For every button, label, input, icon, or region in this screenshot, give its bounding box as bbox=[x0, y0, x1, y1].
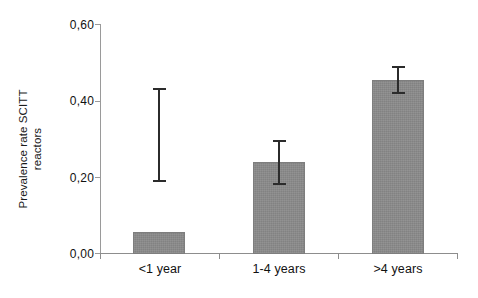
y-tick-mark-0.40 bbox=[95, 101, 100, 102]
plot-area bbox=[100, 24, 458, 254]
y-tick-mark-0.60 bbox=[95, 24, 100, 25]
bar-gt-4-years bbox=[372, 80, 424, 254]
y-axis-tick-labels: 0,00 0,20 0,40 0,60 bbox=[52, 0, 94, 298]
y-tick-label-1: 0,20 bbox=[54, 171, 94, 185]
error-bar-cap-bottom bbox=[153, 180, 166, 182]
x-tick-mark-0 bbox=[100, 254, 101, 259]
x-axis-tick-labels: <1 year 1-4 years >4 years bbox=[100, 262, 458, 284]
error-bar-stem bbox=[397, 66, 399, 94]
x-tick-label-2: >4 years bbox=[373, 262, 422, 276]
error-bar-cap-bottom bbox=[273, 183, 286, 185]
y-tick-label-2: 0,40 bbox=[54, 94, 94, 108]
y-axis-line bbox=[100, 24, 101, 254]
x-tick-label-1: 1-4 years bbox=[252, 262, 305, 276]
error-bar-cap-top bbox=[392, 66, 405, 68]
bar-lt-1-year bbox=[133, 232, 185, 254]
y-tick-label-3: 0,60 bbox=[54, 18, 94, 32]
y-tick-mark-0.20 bbox=[95, 177, 100, 178]
error-bar-stem bbox=[278, 140, 280, 185]
error-bar-stem bbox=[158, 88, 160, 182]
error-bar-cap-bottom bbox=[392, 92, 405, 94]
y-tick-label-0: 0,00 bbox=[54, 247, 94, 261]
x-tick-label-0: <1 year bbox=[139, 262, 182, 276]
error-bar-cap-top bbox=[153, 88, 166, 90]
x-tick-mark-2 bbox=[338, 254, 339, 259]
error-bar-cap-top bbox=[273, 140, 286, 142]
y-axis-title-line2: reactors bbox=[30, 89, 44, 208]
x-tick-mark-3 bbox=[457, 254, 458, 259]
y-axis-title: Prevalence rate SCITT reactors bbox=[0, 0, 60, 298]
bar-chart-figure: Prevalence rate SCITT reactors 0,00 0,20… bbox=[0, 0, 478, 298]
y-axis-title-line1: Prevalence rate SCITT bbox=[16, 89, 30, 208]
x-tick-mark-1 bbox=[219, 254, 220, 259]
